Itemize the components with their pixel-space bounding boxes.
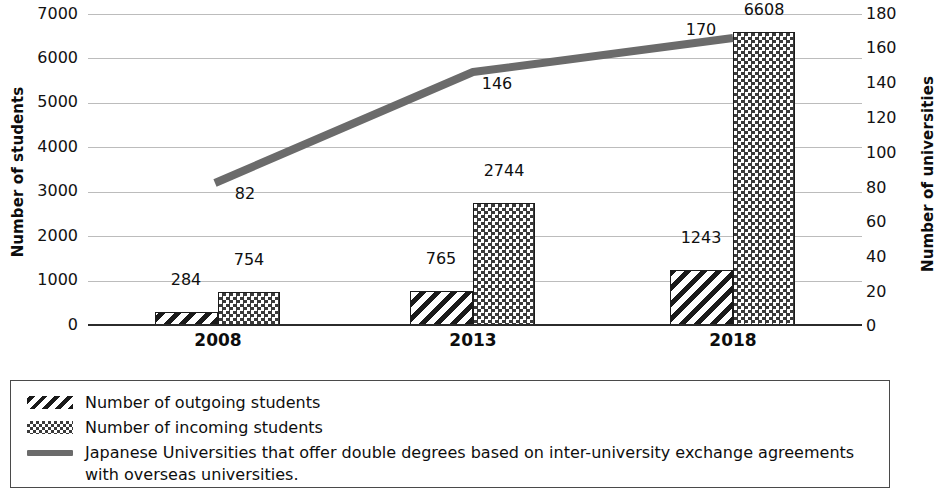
y-tick-right-1: 160	[866, 40, 926, 56]
y-tick-left-4: 3000	[16, 183, 78, 199]
y-tick-right-2: 140	[866, 75, 926, 91]
bar-incoming-2013[interactable]	[473, 203, 535, 325]
bar-incoming-2008[interactable]	[218, 292, 280, 325]
y-tick-left-1: 6000	[16, 50, 78, 66]
diagonal-hatch-swatch-icon	[27, 396, 73, 409]
bar-outgoing-2018[interactable]	[670, 270, 733, 325]
legend-label-incoming: Number of incoming students	[85, 417, 323, 439]
y-tick-right-8: 20	[866, 284, 926, 300]
data-label-outgoing-2018: 1243	[661, 230, 741, 246]
y-tick-left-7: 0	[16, 317, 78, 333]
data-label-incoming-2008: 754	[209, 252, 289, 268]
y-tick-right-3: 120	[866, 110, 926, 126]
legend-item-incoming[interactable]: Number of incoming students	[27, 417, 323, 439]
y-tick-right-4: 100	[866, 145, 926, 161]
bar-outgoing-2013[interactable]	[410, 291, 473, 325]
legend-label-double-degree-universities: Japanese Universities that offer double …	[85, 442, 885, 486]
line-swatch-icon	[27, 450, 73, 456]
legend-item-outgoing[interactable]: Number of outgoing students	[27, 392, 320, 414]
y-tick-right-6: 60	[866, 214, 926, 230]
data-label-line-2013: 146	[462, 76, 532, 92]
data-label-line-2018: 170	[666, 22, 736, 38]
data-label-incoming-2013: 2744	[464, 163, 544, 179]
legend-item-double-degree-universities[interactable]: Japanese Universities that offer double …	[27, 442, 885, 486]
data-label-incoming-2018: 6608	[724, 2, 804, 18]
y-tick-right-5: 80	[866, 180, 926, 196]
y-tick-right-0: 180	[866, 6, 926, 22]
y-tick-left-5: 2000	[16, 228, 78, 244]
x-axis-label-2018: 2018	[663, 332, 803, 349]
y-tick-left-6: 1000	[16, 272, 78, 288]
y-tick-right-7: 40	[866, 249, 926, 265]
chart-legend: Number of outgoing students Number of in…	[10, 380, 890, 488]
data-label-line-2008: 82	[210, 186, 280, 202]
y-tick-left-2: 5000	[16, 94, 78, 110]
checkerboard-swatch-icon	[27, 421, 73, 434]
data-label-outgoing-2013: 765	[401, 251, 481, 267]
line-path	[215, 38, 733, 183]
data-label-outgoing-2008: 284	[146, 272, 226, 288]
x-axis-label-2008: 2008	[148, 332, 288, 349]
x-axis-baseline	[88, 324, 862, 326]
y-tick-right-9: 0	[866, 318, 926, 334]
plot-area: 284 754 765 2744 1243 6608 82 146 170	[88, 14, 862, 325]
bar-incoming-2018[interactable]	[733, 32, 795, 325]
y-tick-left-3: 4000	[16, 139, 78, 155]
y-tick-left-0: 7000	[16, 6, 78, 22]
x-axis-label-2013: 2013	[403, 332, 543, 349]
legend-label-outgoing: Number of outgoing students	[85, 392, 320, 414]
